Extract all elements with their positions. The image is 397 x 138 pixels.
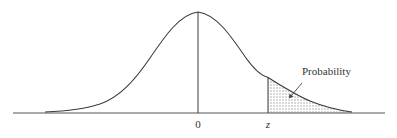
normal-distribution-figure: 0 z Probability bbox=[0, 0, 397, 138]
mean-label: 0 bbox=[195, 118, 201, 130]
z-label: z bbox=[265, 118, 271, 130]
shaded-tail-region bbox=[268, 78, 352, 114]
probability-label: Probability bbox=[302, 65, 351, 77]
